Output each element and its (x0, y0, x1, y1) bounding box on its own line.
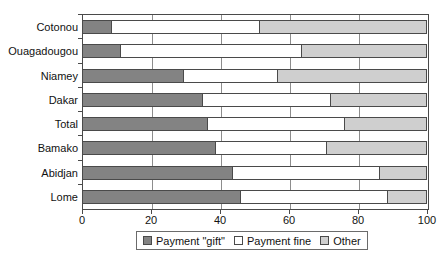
bar-row (82, 44, 427, 58)
y-axis-label: Niamey (0, 70, 78, 82)
y-axis-label: Total (0, 118, 78, 130)
bar-segment (82, 44, 121, 58)
bar-segment (379, 166, 427, 180)
bar-row (82, 69, 427, 83)
bar-segment (111, 20, 260, 34)
legend-item: Other (320, 235, 361, 247)
bar-segment (240, 190, 388, 204)
bar-segment (82, 141, 216, 155)
y-axis-tick (78, 38, 82, 39)
bar-segment (82, 117, 208, 131)
bar-segment (215, 141, 327, 155)
legend-item: Payment "gift" (143, 235, 225, 247)
y-axis-label: Ouagadougou (0, 45, 78, 57)
bar-segment (326, 141, 427, 155)
y-axis-label: Cotonou (0, 21, 78, 33)
bar-row (82, 93, 427, 107)
bar-row (82, 20, 427, 34)
bar-segment (330, 93, 427, 107)
bar-segment (82, 190, 241, 204)
bar-row (82, 166, 427, 180)
y-axis-tick (78, 160, 82, 161)
y-axis-label: Abidjan (0, 167, 78, 179)
bar-segment (82, 166, 233, 180)
bar-segment (82, 20, 112, 34)
y-axis-tick (78, 63, 82, 64)
y-axis-label: Dakar (0, 94, 78, 106)
chart-legend: Payment "gift"Payment fineOther (136, 231, 368, 250)
x-axis-label: 100 (418, 214, 436, 227)
y-axis-tick (78, 111, 82, 112)
bar-segment (82, 93, 203, 107)
y-axis-label: Lome (0, 191, 78, 203)
y-axis-tick (78, 14, 82, 15)
y-axis-labels: CotonouOuagadougouNiameyDakarTotalBamako… (0, 14, 78, 208)
legend-swatch-other (320, 236, 329, 245)
bar-segment (344, 117, 427, 131)
y-axis-tick (78, 87, 82, 88)
bar-segment (232, 166, 380, 180)
bar-row (82, 190, 427, 204)
bar-row (82, 117, 427, 131)
bar-segment (259, 20, 427, 34)
legend-label: Payment fine (247, 235, 311, 247)
bar-segment (82, 69, 184, 83)
x-axis-label: 60 (283, 214, 295, 227)
x-axis-label: 40 (214, 214, 226, 227)
bar-row (82, 141, 427, 155)
x-axis-label: 0 (79, 214, 85, 227)
bar-segment (183, 69, 278, 83)
legend-swatch-gift (143, 236, 152, 245)
x-axis-label: 80 (352, 214, 364, 227)
legend-label: Other (333, 235, 361, 247)
y-axis-tick (78, 184, 82, 185)
bar-segment (301, 44, 427, 58)
legend-item: Payment fine (234, 235, 311, 247)
bars-layer (82, 14, 427, 208)
bar-segment (202, 93, 331, 107)
bar-segment (277, 69, 427, 83)
y-axis-tick (78, 135, 82, 136)
y-axis-label: Bamako (0, 142, 78, 154)
bar-segment (207, 117, 345, 131)
x-axis-label: 20 (145, 214, 157, 227)
bar-segment (387, 190, 427, 204)
legend-label: Payment "gift" (156, 235, 225, 247)
bar-segment (120, 44, 302, 58)
stacked-bar-chart: CotonouOuagadougouNiameyDakarTotalBamako… (0, 0, 441, 262)
legend-swatch-fine (234, 236, 243, 245)
